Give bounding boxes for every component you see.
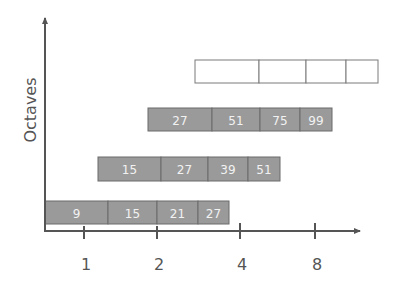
segment-label: 39 <box>220 163 235 177</box>
octave-diagram: 91521271527395127517599 1248 Octaves <box>0 0 398 283</box>
y-axis-label: Octaves <box>21 77 40 142</box>
segment-box <box>259 60 306 83</box>
segment-label: 27 <box>172 114 187 128</box>
segment-label: 15 <box>122 163 137 177</box>
segment-box <box>306 60 346 83</box>
segment-label: 9 <box>73 207 81 221</box>
segment-label: 51 <box>256 163 271 177</box>
x-tick-label: 4 <box>237 255 247 274</box>
octave-row-2: 15273951 <box>98 157 280 181</box>
segment-label: 21 <box>170 207 185 221</box>
segment-box <box>346 60 378 83</box>
segment-label: 15 <box>125 207 140 221</box>
octave-row-3: 27517599 <box>148 108 332 131</box>
x-tick-label: 1 <box>81 255 91 274</box>
octave-row-4 <box>195 60 378 83</box>
segment-label: 27 <box>206 207 221 221</box>
x-tick-label: 8 <box>312 255 322 274</box>
segment-label: 27 <box>177 163 192 177</box>
x-tick-label: 2 <box>154 255 164 274</box>
segment-label: 75 <box>272 114 287 128</box>
rows-group: 91521271527395127517599 <box>45 60 378 224</box>
segment-label: 51 <box>228 114 243 128</box>
segment-box <box>195 60 259 83</box>
segment-label: 99 <box>308 114 323 128</box>
octave-row-1: 9152127 <box>45 201 229 224</box>
